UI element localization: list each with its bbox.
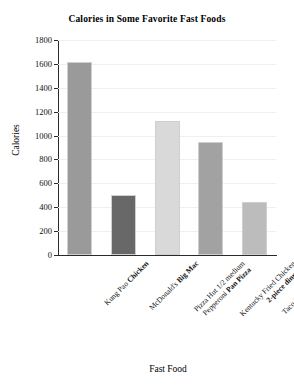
y-tick-mark bbox=[54, 64, 58, 65]
y-tick-label: 600 bbox=[39, 178, 52, 188]
bar bbox=[242, 202, 267, 255]
y-tick-label: 400 bbox=[39, 202, 52, 212]
bar bbox=[67, 62, 92, 256]
fast-food-calories-chart: Calories in Some Favorite Fast Foods Cal… bbox=[0, 0, 294, 391]
y-tick-label: 0 bbox=[48, 250, 52, 260]
plot-area: 020040060080010001200140016001800 bbox=[58, 40, 276, 255]
y-tick-label: 1600 bbox=[35, 59, 52, 69]
bar bbox=[198, 142, 223, 255]
y-tick-mark bbox=[54, 231, 58, 232]
y-tick-mark bbox=[54, 136, 58, 137]
y-tick-mark bbox=[54, 255, 58, 256]
x-tick-label: Kung Pao Chicken bbox=[102, 259, 150, 307]
y-tick-mark bbox=[54, 40, 58, 41]
y-tick-mark bbox=[54, 88, 58, 89]
y-tick-label: 1200 bbox=[35, 107, 52, 117]
y-tick-label: 1800 bbox=[35, 35, 52, 45]
x-axis-title: Fast Food bbox=[58, 364, 278, 374]
x-axis-spine bbox=[58, 255, 277, 256]
bar bbox=[111, 195, 136, 255]
gridline bbox=[58, 40, 276, 41]
y-tick-mark bbox=[54, 159, 58, 160]
y-axis-title: Calories bbox=[11, 85, 21, 195]
y-tick-mark bbox=[54, 183, 58, 184]
chart-title: Calories in Some Favorite Fast Foods bbox=[0, 14, 294, 24]
y-tick-mark bbox=[54, 112, 58, 113]
y-tick-label: 800 bbox=[39, 154, 52, 164]
y-tick-label: 200 bbox=[39, 226, 52, 236]
y-tick-mark bbox=[54, 207, 58, 208]
y-tick-label: 1000 bbox=[35, 131, 52, 141]
bar bbox=[155, 121, 180, 255]
y-tick-label: 1400 bbox=[35, 83, 52, 93]
